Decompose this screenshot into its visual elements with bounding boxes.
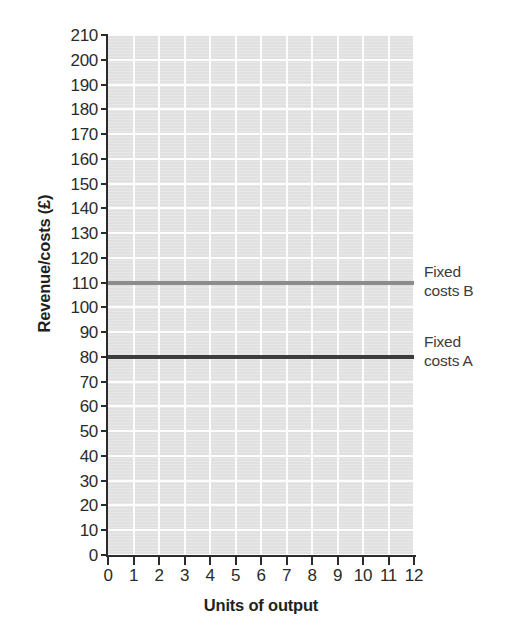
gridline-vertical <box>388 35 390 555</box>
y-axis-tick <box>101 381 108 383</box>
y-axis-tick <box>101 504 108 506</box>
y-axis-tick-label: 150 <box>40 175 98 192</box>
annotation-fixed-costs-b-line1: Fixed <box>424 262 508 281</box>
y-axis-tick-label: 160 <box>40 150 98 167</box>
gridline-vertical <box>311 35 313 555</box>
annotation-fixed-costs-a-line2: costs A <box>424 351 508 370</box>
y-axis-tick <box>101 232 108 234</box>
y-axis-tick <box>101 158 108 160</box>
x-axis-tick <box>209 557 211 565</box>
gridline-vertical <box>184 35 186 555</box>
y-axis-spine <box>106 34 108 557</box>
y-axis-tick-label: 110 <box>40 274 98 291</box>
y-axis-tick-label: 10 <box>40 522 98 539</box>
y-axis-tick <box>101 331 108 333</box>
y-axis-tick <box>101 480 108 482</box>
x-axis-tick-label: 12 <box>394 567 434 584</box>
gridline-vertical <box>158 35 160 555</box>
y-axis-tick-label: 20 <box>40 497 98 514</box>
gridline-vertical <box>362 35 364 555</box>
y-axis-tick-label: 140 <box>40 200 98 217</box>
x-axis-tick <box>184 557 186 565</box>
y-axis-tick <box>101 455 108 457</box>
y-axis-tick <box>101 257 108 259</box>
gridline-vertical <box>209 35 211 555</box>
y-axis-tick <box>101 84 108 86</box>
annotation-fixed-costs-b-line2: costs B <box>424 281 508 300</box>
y-axis-tick-label: 130 <box>40 225 98 242</box>
x-axis-tick <box>311 557 313 565</box>
series-line-fixed-costs-a <box>108 355 414 359</box>
y-axis-tick-label: 50 <box>40 423 98 440</box>
y-axis-tick-label: 100 <box>40 299 98 316</box>
y-axis-tick-label: 0 <box>40 547 98 564</box>
y-axis-tick-label: 80 <box>40 348 98 365</box>
x-axis-tick <box>362 557 364 565</box>
plot-area <box>108 35 414 555</box>
y-axis-tick-labels: 0102030405060708090100110120130140150160… <box>40 35 98 555</box>
gridline-vertical <box>260 35 262 555</box>
y-axis-tick-label: 90 <box>40 324 98 341</box>
y-axis-tick-label: 60 <box>40 398 98 415</box>
x-axis-title: Units of output <box>108 596 414 615</box>
x-axis-tick <box>158 557 160 565</box>
x-axis-tick <box>413 557 415 565</box>
x-axis-tick <box>286 557 288 565</box>
y-axis-tick <box>101 207 108 209</box>
y-axis-tick-label: 210 <box>40 27 98 44</box>
y-axis-tick <box>101 529 108 531</box>
gridline-vertical <box>413 35 414 555</box>
y-axis-tick <box>101 356 108 358</box>
y-axis-tick <box>101 133 108 135</box>
y-axis-tick-label: 170 <box>40 126 98 143</box>
chart-figure: Revenue/costs (£) 0102030405060708090100… <box>0 0 508 639</box>
x-axis-tick <box>107 557 109 565</box>
x-axis-tick <box>235 557 237 565</box>
y-axis-tick-label: 180 <box>40 101 98 118</box>
y-axis-tick <box>101 282 108 284</box>
y-axis-tick <box>101 306 108 308</box>
x-axis-tick <box>260 557 262 565</box>
gridline-vertical <box>235 35 237 555</box>
y-axis-tick-label: 190 <box>40 76 98 93</box>
y-axis-tick-label: 200 <box>40 51 98 68</box>
x-axis-tick <box>337 557 339 565</box>
y-axis-tick-label: 40 <box>40 447 98 464</box>
y-axis-tick <box>101 405 108 407</box>
y-axis-tick <box>101 183 108 185</box>
y-axis-tick-label: 70 <box>40 373 98 390</box>
series-line-fixed-costs-b <box>108 281 414 285</box>
annotation-fixed-costs-b: Fixed costs B <box>424 262 508 300</box>
annotation-fixed-costs-a-line1: Fixed <box>424 332 508 351</box>
gridline-vertical <box>337 35 339 555</box>
annotation-fixed-costs-a: Fixed costs A <box>424 332 508 370</box>
y-axis-tick-label: 120 <box>40 249 98 266</box>
gridline-vertical <box>286 35 288 555</box>
y-axis-tick <box>101 430 108 432</box>
y-axis-tick-label: 30 <box>40 472 98 489</box>
x-axis-tick <box>388 557 390 565</box>
gridline-vertical <box>133 35 135 555</box>
x-axis-tick <box>133 557 135 565</box>
y-axis-tick <box>101 108 108 110</box>
y-axis-tick <box>101 59 108 61</box>
y-axis-tick <box>101 554 108 556</box>
y-axis-tick <box>101 34 108 36</box>
